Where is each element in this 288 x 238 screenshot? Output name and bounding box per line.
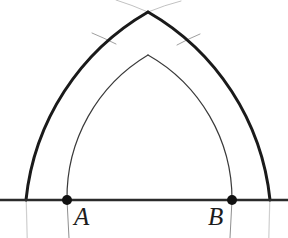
point-a-marker [62, 195, 72, 205]
point-b-label: B [208, 204, 223, 229]
figure-canvas: A B [0, 0, 288, 238]
inner-arch-left-arc [67, 55, 148, 200]
inner-arch-left-foot-tail [67, 200, 69, 238]
arch-diagram-svg [0, 0, 288, 238]
point-b-marker [227, 195, 237, 205]
outer-arch-left-foot-tail [26, 200, 27, 238]
point-a-label: A [74, 204, 89, 229]
apex-left-construction-line [116, 0, 148, 12]
apex-construction-lines [116, 0, 181, 12]
outer-arch-right-arc [148, 12, 270, 200]
apex-right-construction-line [148, 1, 181, 12]
inner-arch-right-arc [148, 55, 232, 200]
inner-arch-right-foot-tail [230, 200, 232, 238]
outer-arch-right-foot-tail [269, 200, 270, 238]
outer-arch-left-arc [26, 12, 148, 200]
inner-arch [67, 55, 232, 200]
outer-arch [26, 12, 270, 200]
outer-arch-below-baseline-tails [26, 200, 270, 238]
